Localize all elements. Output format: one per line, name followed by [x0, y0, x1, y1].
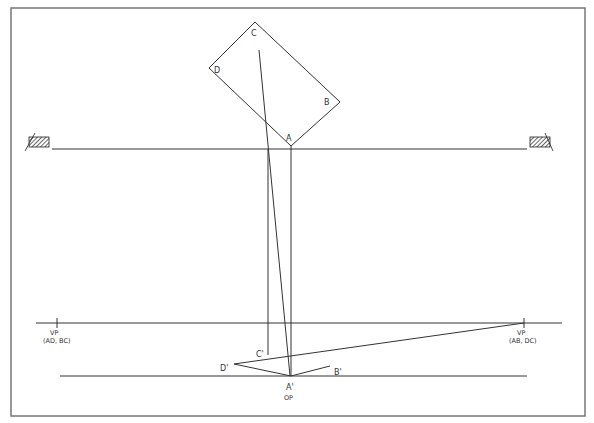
label-A-prime: A': [286, 383, 294, 392]
vp-right-label: VP: [517, 329, 525, 337]
wall-symbol-left-icon: [25, 133, 49, 151]
label-B: B: [324, 98, 330, 107]
plan-rectangle: [209, 22, 340, 146]
label-D: D: [214, 66, 220, 75]
label-C-prime: C': [256, 350, 264, 359]
sight-line-c: [259, 50, 290, 376]
line-d-to-a: [234, 364, 291, 376]
perspective-diagram: A B C D VP (AD, BC) VP (AB, DC) C' D' B'…: [0, 0, 594, 423]
line-d-to-vp-right: [234, 323, 524, 364]
vp-left-sub: (AD, BC): [43, 337, 71, 345]
label-op: OP: [284, 394, 293, 402]
vp-right-sub: (AB, DC): [509, 337, 537, 345]
vp-left-label: VP: [50, 329, 58, 337]
wall-symbol-right-icon: [530, 133, 553, 151]
label-C: C: [251, 29, 257, 38]
line-a-to-b: [291, 366, 330, 376]
label-A: A: [286, 134, 292, 143]
label-B-prime: B': [334, 368, 342, 377]
label-D-prime: D': [220, 364, 228, 373]
